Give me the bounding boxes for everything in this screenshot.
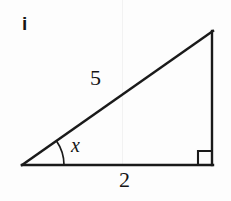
angle-arc-icon bbox=[57, 141, 65, 165]
angle-variable-label: x bbox=[71, 135, 80, 155]
triangle-drawing bbox=[0, 0, 231, 201]
triangle-hypotenuse-side bbox=[22, 31, 213, 165]
figure-item-label: i bbox=[22, 14, 27, 33]
hypotenuse-length-label: 5 bbox=[90, 67, 101, 89]
triangle-figure: i 5 x 2 bbox=[0, 0, 231, 201]
base-length-label: 2 bbox=[119, 169, 130, 191]
right-angle-marker-icon bbox=[198, 151, 212, 165]
